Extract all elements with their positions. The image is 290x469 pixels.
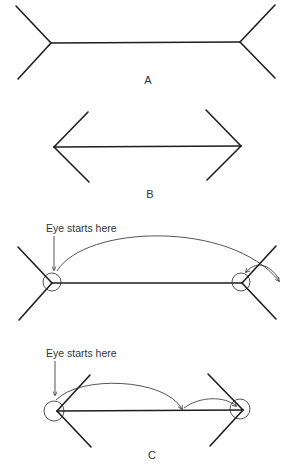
eye-annotation-top: Eye starts here — [46, 222, 117, 234]
label-c: C — [148, 449, 156, 461]
fin-a-left-top — [16, 6, 51, 43]
fin-b-left-top — [54, 112, 88, 147]
muller-lyer-diagram: A B Eye starts here Eye starts here — [0, 0, 290, 469]
figure-c-top: Eye starts here — [18, 222, 279, 320]
figure-a: A — [16, 5, 275, 86]
fixation-circle-right — [232, 273, 250, 291]
fin-a-left-bottom — [18, 43, 51, 79]
label-b: B — [146, 188, 153, 200]
fin-a-right-top — [240, 5, 275, 42]
fin-a-right-bottom — [240, 42, 275, 78]
eye-annotation-bottom: Eye starts here — [46, 347, 117, 359]
figure-c-bottom: Eye starts here C — [44, 347, 250, 461]
shaft-a — [51, 42, 240, 43]
shaft-b — [54, 146, 241, 147]
figure-b: B — [54, 110, 241, 200]
label-a: A — [144, 74, 152, 86]
